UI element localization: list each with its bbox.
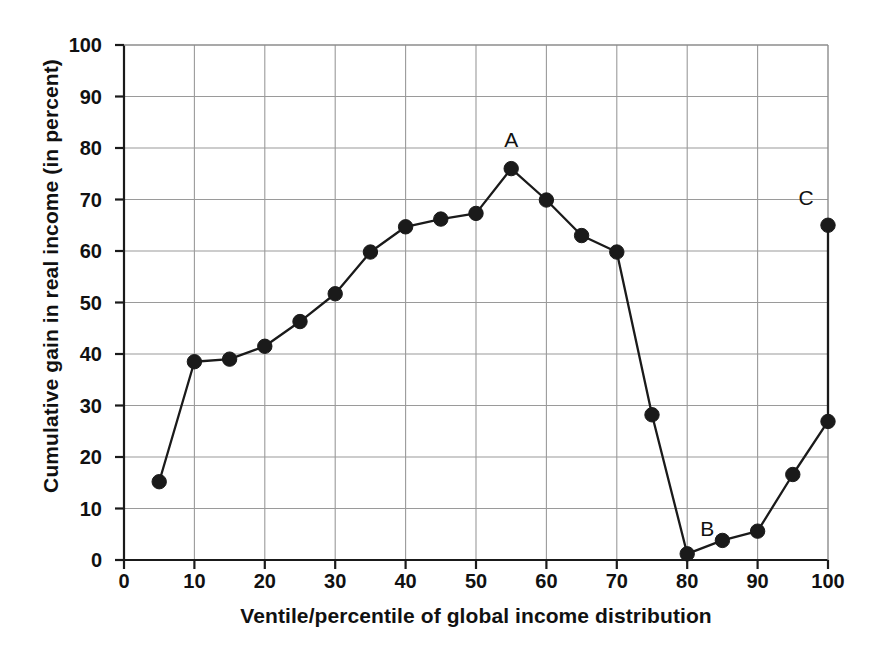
axis-ticks xyxy=(115,45,828,569)
data-point-marker xyxy=(539,193,553,207)
data-point-marker xyxy=(222,352,236,366)
data-point-marker xyxy=(363,245,377,259)
data-point-marker xyxy=(645,408,659,422)
data-point-marker xyxy=(469,206,483,220)
data-point-marker xyxy=(258,339,272,353)
data-point-marker xyxy=(750,524,764,538)
data-point-marker xyxy=(152,475,166,489)
data-point-marker xyxy=(293,314,307,328)
data-point-marker xyxy=(680,547,694,561)
data-point-marker xyxy=(574,228,588,242)
data-point-marker xyxy=(328,287,342,301)
annotation-labels: ABC xyxy=(504,128,813,540)
data-point-marker xyxy=(504,161,518,175)
data-point-marker xyxy=(821,414,835,428)
data-point-marker xyxy=(715,533,729,547)
grid-lines xyxy=(124,45,828,560)
data-markers xyxy=(152,161,835,561)
data-point-marker xyxy=(821,218,835,232)
data-point-marker xyxy=(786,467,800,481)
data-point-marker xyxy=(187,355,201,369)
data-point-marker xyxy=(434,212,448,226)
plot-area: ABC xyxy=(0,0,876,660)
data-series xyxy=(159,169,828,554)
annotation-label-a: A xyxy=(504,128,518,151)
annotation-label-b: B xyxy=(700,517,714,540)
data-point-marker xyxy=(610,245,624,259)
series-line xyxy=(159,169,828,554)
annotation-label-c: C xyxy=(798,186,813,209)
chart-figure: Cumulative gain in real income (in perce… xyxy=(0,0,876,660)
data-point-marker xyxy=(398,220,412,234)
